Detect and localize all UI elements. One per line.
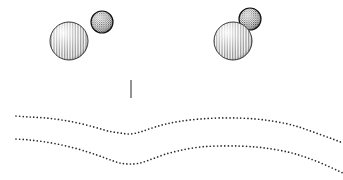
particle-group (50, 8, 261, 60)
left-large-sphere (50, 22, 88, 60)
left-small-sphere (91, 11, 113, 33)
figure-svg (0, 0, 343, 180)
left-sphere-pair (50, 11, 113, 60)
curve-group (15, 115, 343, 173)
lower-interface-curve (15, 138, 343, 173)
upper-interface-curve (15, 115, 341, 143)
figure-canvas (0, 0, 343, 180)
right-large-sphere (214, 22, 252, 60)
right-sphere-pair (214, 8, 261, 60)
